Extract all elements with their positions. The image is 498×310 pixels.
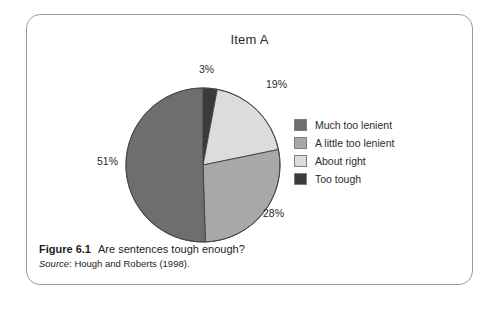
caption-source-line: Source: Hough and Roberts (1998). <box>39 258 459 269</box>
pie-value-label-much-too-lenient: 51% <box>97 155 118 167</box>
legend-swatch-icon <box>294 155 307 167</box>
legend-item-label: About right <box>315 155 366 167</box>
pie-slices <box>126 88 280 242</box>
legend-swatch-icon <box>294 137 307 149</box>
caption-main-line: Figure 6.1Are sentences tough enough? <box>39 243 459 255</box>
chart-legend: Much too lenient A little too lenient Ab… <box>294 117 454 189</box>
legend-item-a-little-too-lenient: A little too lenient <box>294 135 454 151</box>
caption-source-text: : Hough and Roberts (1998). <box>69 258 189 269</box>
pie-slice <box>126 88 205 242</box>
pie-slice <box>203 150 280 242</box>
pie-value-label-a-little-too-lenient: 28% <box>263 207 284 219</box>
legend-item-about-right: About right <box>294 153 454 169</box>
figure-caption: Figure 6.1Are sentences tough enough? So… <box>39 243 459 269</box>
pie-value-label-about-right: 19% <box>266 78 287 90</box>
caption-figure-number: Figure 6.1 <box>39 243 91 255</box>
legend-item-label: Much too lenient <box>315 119 392 131</box>
caption-figure-text: Are sentences tough enough? <box>98 243 245 255</box>
legend-item-label: Too tough <box>315 173 361 185</box>
legend-swatch-icon <box>294 119 307 131</box>
legend-item-too-tough: Too tough <box>294 171 454 187</box>
figure-frame: Item A 3% 19% 28% 51% Much too lenient A… <box>26 14 473 285</box>
pie-value-label-too-tough: 3% <box>199 63 214 75</box>
caption-source-word: Source <box>39 258 69 269</box>
legend-item-label: A little too lenient <box>315 137 394 149</box>
legend-swatch-icon <box>294 173 307 185</box>
legend-item-much-too-lenient: Much too lenient <box>294 117 454 133</box>
